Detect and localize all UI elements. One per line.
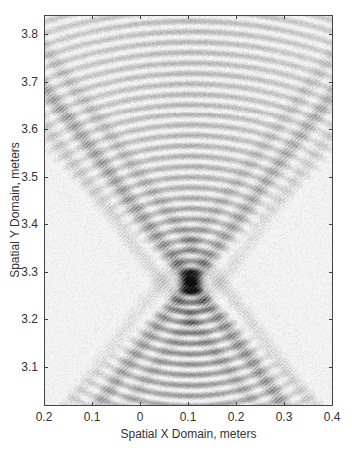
y-axis-label: Spatial Y Domain, meters [8, 142, 22, 278]
x-tick-mark [188, 15, 189, 19]
y-tick-mark [44, 82, 48, 83]
y-tick-mark [329, 82, 333, 83]
y-tick-label: 3.4 [21, 218, 38, 230]
y-tick-label: 3.8 [21, 28, 38, 40]
y-tick-mark [329, 319, 333, 320]
y-tick-label: 3.2 [21, 313, 38, 325]
x-tick-mark [332, 402, 333, 406]
y-tick-mark [44, 272, 48, 273]
y-tick-mark [44, 224, 48, 225]
y-tick-mark [329, 272, 333, 273]
x-tick-label: 0.2 [36, 411, 53, 423]
x-tick-mark [44, 15, 45, 19]
y-tick-mark [44, 129, 48, 130]
x-tick-mark [284, 402, 285, 406]
x-tick-mark [188, 402, 189, 406]
intensity-heatmap [45, 16, 332, 405]
y-tick-label: 3.6 [21, 123, 38, 135]
x-tick-label: 0 [137, 411, 144, 423]
x-tick-label: 0.1 [180, 411, 197, 423]
x-tick-mark [140, 402, 141, 406]
x-tick-mark [92, 402, 93, 406]
x-tick-label: 0.2 [228, 411, 245, 423]
x-tick-label: 0.4 [324, 411, 341, 423]
y-tick-mark [329, 34, 333, 35]
x-tick-mark [236, 402, 237, 406]
x-tick-mark [332, 15, 333, 19]
x-tick-label: 0.3 [276, 411, 293, 423]
y-tick-label: 3.1 [21, 361, 38, 373]
x-tick-label: 0.1 [84, 411, 101, 423]
y-tick-mark [329, 224, 333, 225]
y-tick-mark [44, 34, 48, 35]
x-tick-mark [284, 15, 285, 19]
y-tick-label: 3.7 [21, 76, 38, 88]
y-tick-mark [329, 129, 333, 130]
heatmap-figure: 0.20.100.10.20.30.43.13.23.33.43.53.63.7… [0, 0, 352, 452]
x-tick-mark [236, 15, 237, 19]
plot-area [44, 15, 333, 406]
x-tick-mark [44, 402, 45, 406]
y-tick-mark [329, 367, 333, 368]
x-axis-label: Spatial X Domain, meters [44, 427, 333, 441]
y-tick-mark [44, 367, 48, 368]
y-tick-mark [44, 319, 48, 320]
y-tick-label: 3.3 [21, 266, 38, 278]
y-tick-mark [329, 177, 333, 178]
y-tick-label: 3.5 [21, 171, 38, 183]
x-tick-mark [92, 15, 93, 19]
y-tick-mark [44, 177, 48, 178]
x-tick-mark [140, 15, 141, 19]
